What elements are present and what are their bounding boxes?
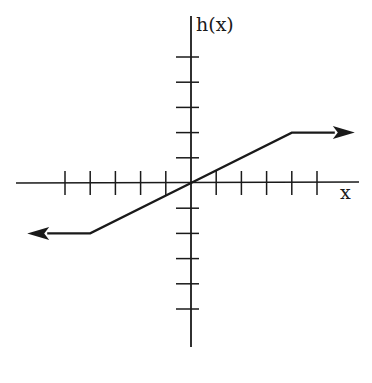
arrow-left-icon <box>27 227 49 240</box>
function-graph: h(x) x <box>0 0 372 383</box>
x-axis-label: x <box>340 181 351 203</box>
axes <box>16 16 359 347</box>
x-axis-line <box>16 182 359 183</box>
y-axis-label: h(x) <box>196 13 234 35</box>
arrow-right-icon <box>333 126 355 139</box>
